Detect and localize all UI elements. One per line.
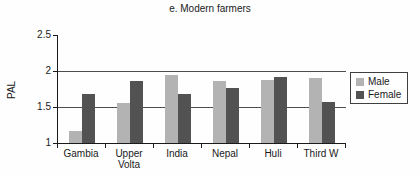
bar-chart-figure: e. Modern farmers PAL 2.521.51 GambiaUpp… [0, 0, 420, 176]
gridline-1-5 [58, 107, 346, 108]
bar-female-india [178, 94, 191, 143]
plot-area [57, 35, 346, 144]
legend-item-male: Male [356, 76, 401, 87]
y-tick-label-2-5: 2.5 [20, 29, 51, 41]
x-tick-mark-1 [105, 144, 106, 148]
bar-male-huli [261, 80, 274, 143]
x-category-label-huli: Huli [249, 148, 297, 159]
bar-male-gambia [69, 131, 82, 143]
x-category-label-gambia: Gambia [57, 148, 105, 159]
legend-swatch-female-icon [356, 91, 364, 99]
bar-male-third-w [309, 78, 322, 143]
chart-title: e. Modern farmers [0, 3, 420, 14]
bar-male-india [165, 75, 178, 143]
x-category-label-india: India [153, 148, 201, 159]
x-tick-mark-4 [249, 144, 250, 148]
x-tick-mark-6 [345, 144, 346, 148]
x-category-label-upper-volta: Upper Volta [105, 148, 153, 170]
y-tick-label-2: 2 [20, 65, 51, 77]
legend-label-female: Female [368, 89, 401, 100]
y-tick-mark-2 [53, 71, 57, 72]
bar-female-nepal [226, 88, 239, 143]
y-axis-label: PAL [6, 70, 18, 110]
bar-female-huli [274, 77, 287, 143]
y-tick-label-1: 1 [20, 137, 51, 149]
legend-label-male: Male [368, 76, 390, 87]
x-category-label-nepal: Nepal [201, 148, 249, 159]
x-tick-mark-3 [201, 144, 202, 148]
gridline-2 [58, 71, 346, 72]
bar-female-upper-volta [130, 81, 143, 143]
bar-female-third-w [322, 102, 335, 143]
legend-item-female: Female [356, 89, 401, 100]
x-tick-mark-2 [153, 144, 154, 148]
bar-female-gambia [82, 94, 95, 143]
bar-male-nepal [213, 81, 226, 143]
bar-male-upper-volta [117, 103, 130, 143]
x-tick-mark-5 [297, 144, 298, 148]
legend-swatch-male-icon [356, 78, 364, 86]
y-tick-label-1-5: 1.5 [20, 101, 51, 113]
legend: MaleFemale [350, 72, 408, 104]
x-category-label-third-w: Third W [297, 148, 345, 159]
x-tick-mark-0 [57, 144, 58, 148]
y-tick-mark-1-5 [53, 107, 57, 108]
y-tick-mark-2-5 [53, 35, 57, 36]
